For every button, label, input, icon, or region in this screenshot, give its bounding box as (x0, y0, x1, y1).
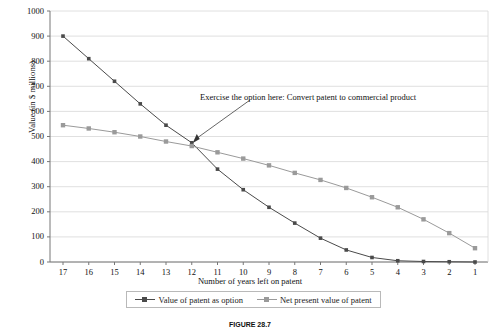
y-axis-tick-label: 500 (10, 132, 44, 141)
x-axis-tick-label: 16 (78, 268, 100, 277)
x-axis-tick-label: 3 (413, 268, 435, 277)
x-axis-tick-label: 12 (181, 268, 203, 277)
y-axis-tick-label: 700 (10, 82, 44, 91)
x-axis-tick-label: 8 (284, 268, 306, 277)
figure-caption-label: FIGURE 28.7 (229, 321, 271, 327)
legend-marker-dot-icon (135, 295, 155, 304)
figure-caption: FIGURE 28.7 (0, 320, 500, 327)
x-axis-title: Number of years left on patent (0, 276, 500, 286)
y-axis-tick-label: 0 (10, 258, 44, 267)
legend-label-npv: Net present value of patent (280, 295, 372, 305)
x-axis-tick-label: 9 (258, 268, 280, 277)
x-axis-tick-label: 1 (464, 268, 486, 277)
x-axis-tick-label: 13 (155, 268, 177, 277)
x-axis-tick-label: 11 (207, 268, 229, 277)
x-axis-tick-label: 10 (232, 268, 254, 277)
legend-marker-square-icon (257, 295, 277, 304)
patent-option-value-chart: Value (in $ millions) Exercise the optio… (0, 0, 500, 327)
y-axis-tick-label: 600 (10, 107, 44, 116)
y-axis-tick-label: 400 (10, 157, 44, 166)
chart-legend: Value of patent as option Net present va… (126, 291, 381, 308)
legend-label-option: Value of patent as option (158, 295, 243, 305)
y-axis-tick-label: 100 (10, 232, 44, 241)
y-axis-tick-label: 200 (10, 207, 44, 216)
x-axis-tick-label: 6 (335, 268, 357, 277)
legend-item-option[interactable]: Value of patent as option (135, 295, 243, 305)
y-axis-tick-label: 300 (10, 182, 44, 191)
x-axis-tick-label: 15 (104, 268, 126, 277)
legend-item-npv[interactable]: Net present value of patent (257, 295, 372, 305)
y-axis-tick-label: 900 (10, 32, 44, 41)
x-axis-tick-label: 5 (361, 268, 383, 277)
y-axis-tick-label: 1000 (10, 7, 44, 16)
x-axis-tick-label: 7 (310, 268, 332, 277)
x-axis-tick-label: 2 (438, 268, 460, 277)
y-axis-tick-label: 800 (10, 57, 44, 66)
x-axis-tick-label: 14 (129, 268, 151, 277)
x-axis-tick-label: 17 (52, 268, 74, 277)
x-axis-tick-label: 4 (387, 268, 409, 277)
exercise-annotation-label: Exercise the option here: Convert patent… (200, 92, 416, 102)
